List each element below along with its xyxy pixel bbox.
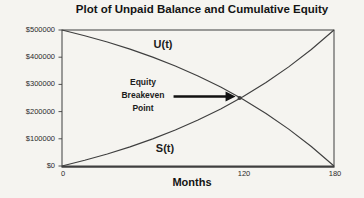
series-label-cumulative-equity: S(t) xyxy=(135,142,195,154)
breakeven-annotation: Equity Breakeven Point xyxy=(103,76,183,115)
breakeven-annotation-line1: Equity xyxy=(103,76,183,89)
y-tick-label: $500000 xyxy=(0,25,55,35)
chart-page: Plot of Unpaid Balance and Cumulative Eq… xyxy=(0,0,364,198)
y-tick-label: $100000 xyxy=(0,134,55,144)
y-tick-label: $300000 xyxy=(0,79,55,89)
breakeven-annotation-line3: Point xyxy=(103,102,183,115)
y-tick-label: $0 xyxy=(0,161,55,171)
breakeven-annotation-line2: Breakeven xyxy=(103,89,183,102)
y-tick-label: $200000 xyxy=(0,107,55,117)
x-axis-label: Months xyxy=(62,176,322,188)
y-tick-label: $400000 xyxy=(0,52,55,62)
x-tick-label: 180 xyxy=(320,169,350,179)
series-label-unpaid-balance: U(t) xyxy=(133,38,193,50)
